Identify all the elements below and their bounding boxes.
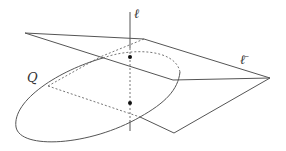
- diagram-canvas: ℓ ℓ̄ Q: [0, 0, 286, 151]
- label-l-bar: ℓ̄: [240, 52, 249, 67]
- hidden-plane-edge-front: [48, 86, 140, 117]
- plane-edge-top: [25, 33, 144, 39]
- plane-edge-lower-right: [174, 78, 270, 133]
- ellipse-quadric: [16, 58, 180, 142]
- hidden-plane-edge-back: [100, 39, 144, 57]
- visible-lines: [16, 12, 270, 142]
- label-q: Q: [27, 70, 38, 85]
- plane-edge-diagonal: [25, 33, 173, 80]
- plane-edge-lower-left: [140, 117, 174, 133]
- plane-edge-mid: [173, 78, 270, 80]
- plane-edge-back-right: [144, 39, 270, 78]
- point-lower: [128, 101, 132, 105]
- hidden-lines: [48, 39, 180, 120]
- point-upper: [128, 55, 132, 59]
- label-l: ℓ: [134, 6, 140, 21]
